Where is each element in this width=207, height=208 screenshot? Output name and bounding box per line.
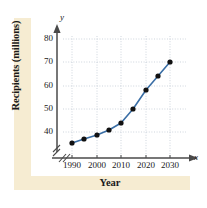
y-axis-arrow	[53, 24, 60, 33]
y-tick-label-70: 70	[33, 56, 53, 66]
data-line	[72, 62, 170, 143]
data-point-1990	[69, 140, 74, 145]
x-tick-label-2020: 2020	[134, 160, 158, 170]
data-point-2015	[130, 106, 135, 111]
x-tick-label-2010: 2010	[109, 160, 133, 170]
data-point-2020	[143, 87, 148, 92]
y-axis	[53, 24, 61, 156]
y-axis-variable-label: y	[60, 12, 64, 22]
chart-figure: y x 80 70 60 50 40 1990 2000 2010 2020 2…	[0, 0, 207, 208]
x-axis-title: Year	[40, 177, 180, 188]
x-axis-variable-label: x	[194, 152, 198, 162]
y-tick-label-40: 40	[33, 126, 53, 136]
data-point-2010	[118, 120, 123, 125]
data-point-2000	[94, 132, 99, 137]
x-tick-label-2000: 2000	[85, 160, 109, 170]
y-axis-title: Recipients (millions)	[10, 0, 21, 141]
y-tick-label-60: 60	[33, 80, 53, 90]
data-point-2005	[106, 127, 111, 132]
x-tick-label-2030: 2030	[158, 160, 182, 170]
x-tick-label-1990: 1990	[60, 160, 84, 170]
data-point-2030	[167, 59, 172, 64]
data-point-1995	[81, 136, 86, 141]
y-tick-label-50: 50	[33, 103, 53, 113]
data-point-2025	[155, 73, 160, 78]
y-tick-label-80: 80	[33, 33, 53, 43]
gridlines-vertical	[72, 36, 170, 158]
